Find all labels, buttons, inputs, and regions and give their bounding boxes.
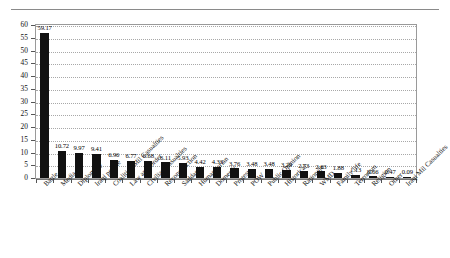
y-tick-label-5: 5 (24, 162, 28, 169)
bar-slot: 10.72 (58, 25, 66, 178)
bar-value-label: 3.48 (246, 161, 257, 168)
y-tick-mark-55 (31, 38, 35, 39)
y-tick-label-60: 60 (21, 21, 28, 28)
bar-value-label: 3.48 (264, 161, 275, 168)
bar-value-label: 59.17 (37, 25, 51, 32)
bar-slot: 0.47 (386, 25, 394, 178)
bar-chart: 051015202530354045505560 59.1710.729.979… (0, 18, 450, 258)
bar-slot: 6.11 (161, 25, 169, 178)
x-axis-labels: BattleMediaDiplomacyIraqi peopleCoalitio… (0, 182, 450, 258)
bar-slot: 3.76 (230, 25, 238, 178)
bar-slot: 1.88 (334, 25, 342, 178)
y-tick-label-40: 40 (21, 72, 28, 79)
bar-slot: 1.13 (351, 25, 359, 178)
bar-slot: 3.48 (248, 25, 256, 178)
bar-slot: 9.97 (75, 25, 83, 178)
y-tick-mark-35 (31, 89, 35, 90)
y-tick-mark-5 (31, 165, 35, 166)
bar-slot: 4.42 (196, 25, 204, 178)
y-tick-mark-10 (31, 153, 35, 154)
y-tick-label-10: 10 (21, 149, 28, 156)
top-divider-rule (11, 9, 439, 10)
bar-value-label: 9.41 (91, 146, 102, 153)
y-tick-label-35: 35 (21, 85, 28, 92)
bar-slot: 59.17 (40, 25, 48, 178)
y-tick-label-25: 25 (21, 111, 28, 118)
y-tick-mark-50 (31, 51, 35, 52)
y-tick-label-20: 20 (21, 123, 28, 130)
bar (58, 151, 66, 178)
bar-value-label: 1.88 (333, 165, 344, 172)
y-tick-label-30: 30 (21, 98, 28, 105)
y-tick-label-50: 50 (21, 47, 28, 54)
bar-value-label: 10.72 (55, 143, 69, 150)
bar-slot: 9.41 (92, 25, 100, 178)
y-tick-label-0: 0 (24, 174, 28, 181)
bar-slot: 3.48 (265, 25, 273, 178)
bar-slot: 0.66 (369, 25, 377, 178)
y-tick-mark-30 (31, 102, 35, 103)
y-tick-label-45: 45 (21, 60, 28, 67)
bar-slot: 6.77 (127, 25, 135, 178)
bar-slot: 2.63 (317, 25, 325, 178)
y-tick-mark-20 (31, 127, 35, 128)
bar-slot: 3.29 (282, 25, 290, 178)
y-tick-mark-15 (31, 140, 35, 141)
y-tick-label-55: 55 (21, 34, 28, 41)
y-tick-mark-45 (31, 63, 35, 64)
y-tick-mark-60 (31, 25, 35, 26)
bar-slot: 0.09 (403, 25, 411, 178)
y-tick-mark-25 (31, 114, 35, 115)
y-axis: 051015202530354045505560 (0, 24, 35, 179)
bar-slot: 6.96 (110, 25, 118, 178)
bar-slot: 4.33 (213, 25, 221, 178)
y-tick-mark-0 (31, 178, 35, 179)
bar (40, 33, 48, 178)
y-tick-mark-40 (31, 76, 35, 77)
y-tick-label-15: 15 (21, 136, 28, 143)
bar-value-label: 9.97 (74, 145, 85, 152)
